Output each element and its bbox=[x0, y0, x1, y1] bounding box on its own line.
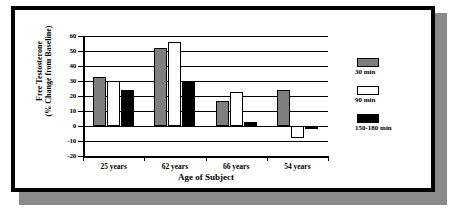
y-axis-tick-label: 50 bbox=[50, 48, 76, 55]
x-axis-category-label: 62 years bbox=[145, 162, 205, 171]
y-axis-title-line1: Free Testosterone bbox=[35, 41, 44, 101]
legend-swatch bbox=[357, 86, 379, 95]
y-axis-tick-label-wrap: -20 bbox=[47, 153, 76, 160]
x-axis-tick bbox=[328, 157, 329, 161]
x-axis-title: Age of Subject bbox=[83, 172, 329, 182]
figure-frame: Free Testosterone (% Change from Baselin… bbox=[11, 6, 435, 192]
bar bbox=[121, 90, 134, 126]
legend-swatch bbox=[357, 114, 379, 123]
bar bbox=[305, 126, 318, 129]
bar bbox=[277, 90, 290, 126]
legend-swatch bbox=[357, 58, 379, 67]
y-axis-tick-label-wrap: 20 bbox=[47, 93, 76, 100]
y-axis-tick-label: 40 bbox=[50, 63, 76, 70]
legend-label: 30 min bbox=[355, 68, 375, 76]
gridline bbox=[83, 141, 328, 142]
x-axis-tick bbox=[267, 157, 268, 161]
y-axis-tick-label-wrap: 0 bbox=[47, 123, 76, 130]
x-axis-category-label: 25 years bbox=[84, 162, 144, 171]
bar bbox=[230, 92, 243, 127]
legend-label: 150-180 min bbox=[355, 124, 392, 132]
x-axis-category-label: 54 years bbox=[267, 162, 327, 171]
bar bbox=[107, 81, 120, 126]
y-axis-tick-label: 0 bbox=[50, 123, 76, 130]
y-axis-tick-label: -10 bbox=[50, 138, 76, 145]
bar bbox=[291, 126, 304, 138]
y-axis-tick-label: 30 bbox=[50, 78, 76, 85]
bar bbox=[216, 101, 229, 127]
y-axis-tick-label-wrap: 50 bbox=[47, 48, 76, 55]
chart-legend: 30 min90 min150-180 min bbox=[351, 58, 435, 142]
bar bbox=[168, 42, 181, 126]
y-axis-tick-label: 10 bbox=[50, 108, 76, 115]
gridline bbox=[83, 66, 328, 67]
x-axis-category-label: 66 years bbox=[206, 162, 266, 171]
bar bbox=[154, 48, 167, 126]
bar bbox=[93, 77, 106, 127]
x-axis-tick bbox=[83, 157, 84, 161]
x-axis-tick bbox=[144, 157, 145, 161]
legend-item: 90 min bbox=[351, 86, 435, 114]
y-axis-tick-label-wrap: 10 bbox=[47, 108, 76, 115]
y-axis-tick-label-wrap: 40 bbox=[47, 63, 76, 70]
legend-label: 90 min bbox=[355, 96, 375, 104]
y-axis-tick-label-wrap: 30 bbox=[47, 78, 76, 85]
gridline bbox=[83, 36, 328, 37]
legend-item: 30 min bbox=[351, 58, 435, 86]
y-axis-tick-label: 60 bbox=[50, 33, 76, 40]
chart-canvas: Free Testosterone (% Change from Baselin… bbox=[15, 10, 431, 188]
gridline bbox=[83, 51, 328, 52]
legend-item: 150-180 min bbox=[351, 114, 435, 142]
bar bbox=[182, 81, 195, 126]
x-axis-tick bbox=[206, 157, 207, 161]
y-axis-tick-label-wrap: 60 bbox=[47, 33, 76, 40]
y-axis-tick-label: -20 bbox=[50, 153, 76, 160]
bar bbox=[244, 122, 257, 127]
y-axis-tick-label-wrap: -10 bbox=[47, 138, 76, 145]
plot-area bbox=[83, 36, 328, 156]
y-axis-tick-label: 20 bbox=[50, 93, 76, 100]
